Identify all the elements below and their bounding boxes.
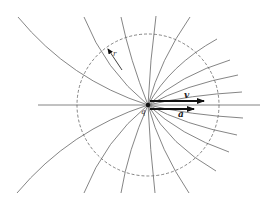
velocity-label: v (184, 90, 190, 100)
field-line (18, 17, 148, 105)
field-line (121, 17, 148, 105)
field-line (148, 92, 242, 105)
field-lines (17, 16, 260, 193)
field-line (148, 105, 243, 118)
acceleration-label: a (178, 109, 184, 119)
field-line (84, 105, 148, 193)
field-line (148, 105, 229, 152)
field-diagram: r v a q (0, 0, 275, 202)
point-charge (146, 103, 150, 107)
field-line (17, 105, 148, 193)
charge-label: q (141, 108, 146, 116)
field-line (121, 105, 148, 193)
radius-label: r (113, 50, 117, 58)
